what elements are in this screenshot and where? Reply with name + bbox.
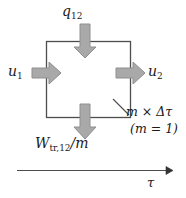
thermodynamic-control-mass-figure: q12 u1 u2 Wtr,12/m m × Δτ (m = 1) τ [0, 0, 186, 198]
work-out-label: Wtr,12/m [35, 136, 89, 150]
time-axis-label: τ [147, 176, 154, 189]
work-out-divisor: /m [71, 135, 89, 151]
work-out-subscript: tr,12 [49, 143, 70, 153]
figure-canvas [0, 0, 186, 198]
time-axis-arrowhead [166, 167, 173, 175]
work-out-symbol: W [35, 135, 49, 151]
heat-in-symbol: q [62, 3, 71, 19]
mass-value-label: (m = 1) [130, 123, 178, 136]
mass-time-label: m × Δτ [126, 106, 172, 119]
energy-in-symbol: u [8, 63, 17, 79]
energy-in-subscript: 1 [17, 71, 23, 81]
energy-out-subscript: 2 [157, 71, 163, 81]
energy-out-symbol: u [148, 63, 157, 79]
heat-in-label: q12 [62, 4, 82, 18]
energy-out-label: u2 [148, 64, 163, 78]
energy-in-label: u1 [8, 64, 23, 78]
work-out-arrow [74, 104, 96, 139]
heat-in-subscript: 12 [71, 11, 82, 21]
